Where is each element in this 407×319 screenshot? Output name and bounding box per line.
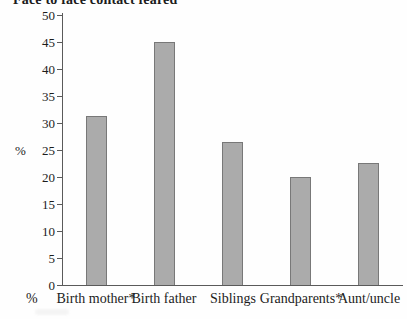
x-axis-unit-label: % bbox=[26, 291, 38, 306]
y-tick-25 bbox=[57, 150, 62, 151]
x-axis-line bbox=[62, 285, 403, 286]
y-tick-label-35: 35 bbox=[25, 89, 55, 104]
y-tick-0 bbox=[57, 285, 62, 286]
y-tick-5 bbox=[57, 258, 62, 259]
figure-title: Face to face contact feared bbox=[13, 0, 178, 8]
bar-birth-father bbox=[154, 42, 175, 285]
y-tick-label-40: 40 bbox=[25, 62, 55, 77]
y-tick-label-10: 10 bbox=[25, 224, 55, 239]
y-tick-label-50: 50 bbox=[25, 8, 55, 23]
bar-siblings bbox=[222, 142, 243, 285]
y-tick-45 bbox=[57, 42, 62, 43]
y-tick-50 bbox=[57, 15, 62, 16]
y-tick-15 bbox=[57, 204, 62, 205]
bar-birth-mother bbox=[86, 116, 107, 285]
y-tick-label-25: 25 bbox=[25, 143, 55, 158]
bar-grandparents bbox=[290, 177, 311, 285]
bar-aunt-uncle bbox=[358, 163, 379, 285]
y-tick-35 bbox=[57, 96, 62, 97]
y-tick-label-20: 20 bbox=[25, 170, 55, 185]
scan-artifact bbox=[35, 309, 69, 315]
y-tick-label-5: 5 bbox=[25, 251, 55, 266]
y-tick-40 bbox=[57, 69, 62, 70]
y-tick-20 bbox=[57, 177, 62, 178]
y-tick-30 bbox=[57, 123, 62, 124]
x-category-label-aunt-uncle: Aunt/uncle bbox=[317, 291, 407, 307]
y-tick-label-15: 15 bbox=[25, 197, 55, 212]
y-tick-10 bbox=[57, 231, 62, 232]
y-axis-line bbox=[62, 13, 63, 286]
y-tick-label-30: 30 bbox=[25, 116, 55, 131]
y-tick-label-45: 45 bbox=[25, 35, 55, 50]
